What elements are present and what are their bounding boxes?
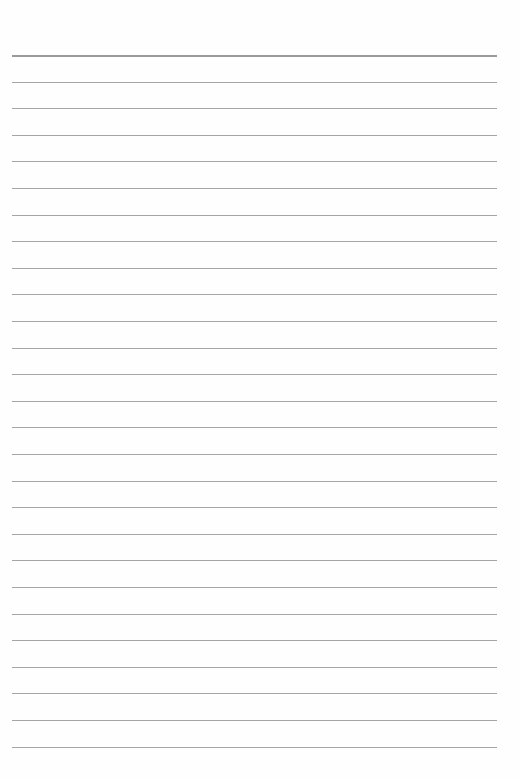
- ruled-line: [12, 55, 497, 57]
- ruled-line: [12, 693, 497, 694]
- ruled-line: [12, 188, 497, 189]
- ruled-line: [12, 135, 497, 136]
- ruled-line: [12, 534, 497, 535]
- ruled-line: [12, 241, 497, 242]
- lined-paper-sheet: [0, 0, 520, 778]
- ruled-line: [12, 640, 497, 641]
- ruled-line: [12, 294, 497, 295]
- ruled-line: [12, 667, 497, 668]
- ruled-line: [12, 82, 497, 83]
- ruled-line: [12, 215, 497, 216]
- ruled-line: [12, 720, 497, 721]
- ruled-line: [12, 614, 497, 615]
- ruled-line: [12, 454, 497, 455]
- ruled-line: [12, 348, 497, 349]
- ruled-line: [12, 587, 497, 588]
- ruled-line: [12, 747, 497, 748]
- ruled-line: [12, 321, 497, 322]
- ruled-line: [12, 481, 497, 482]
- ruled-line: [12, 427, 497, 428]
- ruled-line: [12, 507, 497, 508]
- ruled-line: [12, 560, 497, 561]
- ruled-line: [12, 374, 497, 375]
- ruled-line: [12, 268, 497, 269]
- ruled-line: [12, 108, 497, 109]
- ruled-line: [12, 161, 497, 162]
- ruled-line: [12, 401, 497, 402]
